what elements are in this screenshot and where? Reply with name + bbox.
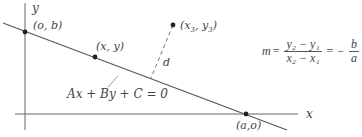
minus-sign: − [337, 44, 344, 59]
equation-pointer [108, 76, 118, 87]
general-point [93, 55, 98, 60]
equals-sign-1: = [273, 44, 280, 59]
slope-fraction: y₂ − y₁ x₂ − x₁ [284, 38, 321, 65]
x-intercept-label: (a,o) [236, 119, 261, 132]
slope-denominator: x₂ − x₁ [284, 52, 321, 65]
y-intercept-point [23, 30, 28, 35]
intercept-denominator: a [349, 52, 359, 65]
general-point-label: (x, y) [96, 40, 124, 53]
slope-numerator: y₂ − y₁ [284, 38, 321, 52]
intercept-fraction: b a [349, 38, 359, 65]
y-axis-label: y [31, 1, 39, 15]
external-point [171, 23, 176, 28]
x-intercept-point [244, 112, 249, 117]
equals-sign-2: = [327, 44, 334, 59]
line-equation: Ax + By + C = 0 [66, 87, 168, 101]
distance-segment [151, 25, 173, 78]
x-axis-label: x [306, 107, 313, 121]
slope-symbol: m [262, 44, 271, 59]
y-intercept-label: (o, b) [33, 19, 62, 32]
external-point-label: (x3, y3) [180, 19, 217, 34]
ext-label-mid: , y [195, 19, 209, 32]
distance-label: d [163, 56, 170, 69]
intercept-numerator: b [349, 38, 359, 52]
slope-formula: m = y₂ − y₁ x₂ − x₁ = − b a [262, 38, 362, 65]
ext-label-end: ) [212, 19, 217, 32]
